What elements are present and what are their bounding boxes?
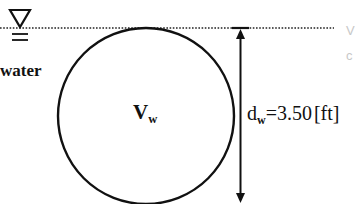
volume-label: Vw bbox=[133, 102, 157, 126]
volume-subscript: w bbox=[148, 112, 157, 126]
depth-label: dw=3.50[ft] bbox=[247, 103, 340, 126]
depth-equals: = bbox=[266, 102, 277, 124]
water-label: water bbox=[0, 62, 42, 79]
depth-unit: [ft] bbox=[314, 102, 340, 124]
depth-symbol: d bbox=[247, 102, 257, 124]
arrow-up-icon bbox=[236, 29, 245, 39]
volume-symbol: V bbox=[133, 100, 148, 124]
depth-value: 3.50 bbox=[277, 102, 312, 124]
clipped-text-1: V bbox=[346, 24, 355, 37]
clipped-text-2: c bbox=[346, 49, 353, 62]
water-surface-triangle-icon bbox=[10, 10, 30, 27]
arrow-down-icon bbox=[236, 193, 245, 203]
depth-subscript: w bbox=[257, 113, 266, 127]
